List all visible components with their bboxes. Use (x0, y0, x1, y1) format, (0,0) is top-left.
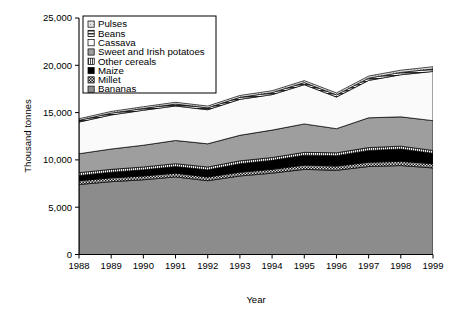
legend-swatch-maize[interactable] (88, 68, 94, 74)
x-tick-label: 1991 (165, 260, 186, 271)
x-axis-title: Year (246, 294, 265, 305)
x-tick-label: 1998 (390, 260, 411, 271)
chart-canvas: 25,00020,00015,00010,0005,0000 198819891… (0, 0, 453, 311)
x-tick-label: 1989 (101, 260, 122, 271)
x-tick-label: 1996 (326, 260, 347, 271)
x-tick-label: 1995 (294, 260, 315, 271)
x-tick-label: 1997 (358, 260, 379, 271)
legend-swatch-sweet-and-irish-potatoes[interactable] (88, 49, 94, 55)
y-axis-title: Thousand tonnes (22, 99, 33, 173)
y-tick-label: 15,000 (43, 107, 72, 118)
legend-label-bananas[interactable]: Bananas (98, 83, 136, 94)
legend-swatch-millet[interactable] (88, 77, 94, 83)
x-tick-label: 1992 (197, 260, 218, 271)
series-areas (79, 67, 433, 255)
x-tick-label: 1994 (262, 260, 283, 271)
x-tick-label: 1988 (68, 260, 89, 271)
legend-swatch-pulses[interactable] (88, 21, 94, 27)
legend-swatch-beans[interactable] (88, 30, 94, 36)
y-tick-label: 20,000 (43, 60, 72, 71)
x-tick-group: 1988198919901991199219931994199519961997… (68, 255, 443, 271)
legend-swatch-bananas[interactable] (88, 86, 94, 92)
x-tick-label: 1993 (229, 260, 250, 271)
y-tick-label: 5,000 (48, 202, 72, 213)
y-tick-label: 25,000 (43, 12, 72, 23)
stacked-area-chart: 25,00020,00015,00010,0005,0000 198819891… (0, 0, 453, 311)
legend-swatch-cassava[interactable] (88, 40, 94, 46)
chart-legend: PulsesBeansCassavaSweet and Irish potato… (83, 16, 216, 94)
y-tick-label: 0 (67, 249, 72, 260)
y-tick-group: 25,00020,00015,00010,0005,0000 (43, 12, 79, 260)
x-tick-label: 1990 (133, 260, 154, 271)
y-tick-label: 10,000 (43, 154, 72, 165)
legend-swatch-other-cereals[interactable] (88, 58, 94, 64)
x-tick-label: 1999 (422, 260, 443, 271)
